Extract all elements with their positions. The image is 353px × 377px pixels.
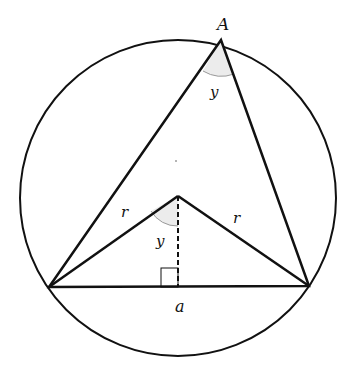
radius-right [178,196,309,286]
diagram-canvas: A y r r y a [0,0,353,377]
center-dot [175,160,177,162]
label-vertex-A: A [215,14,229,34]
label-radius-left: r [121,203,129,221]
label-angle-A: y [209,83,219,101]
label-radius-right: r [233,209,241,227]
label-angle-center: y [155,232,165,250]
right-angle-marker [161,268,178,287]
inscribed-triangle [49,40,309,287]
label-chord-a: a [175,297,185,316]
